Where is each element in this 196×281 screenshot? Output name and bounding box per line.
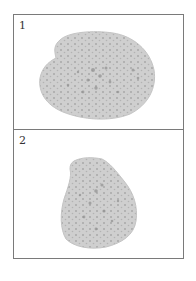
specimen-1-image — [38, 30, 158, 122]
panel-label: 2 — [19, 135, 26, 146]
panel-2: 2 — [14, 130, 183, 259]
panel-label: 1 — [19, 20, 26, 31]
panel-1: 1 — [14, 15, 183, 130]
figure-frame: 1 2 — [13, 14, 184, 259]
specimen-2-image — [60, 155, 140, 250]
